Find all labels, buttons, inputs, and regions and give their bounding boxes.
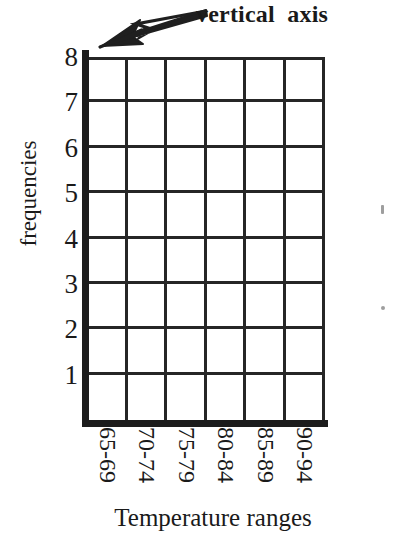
grid-cell [207, 102, 247, 147]
x-tick-label: 70-74 [135, 427, 159, 483]
x-tick-label: 80-84 [214, 427, 238, 483]
grid-cell [286, 284, 326, 329]
grid-cell [246, 239, 286, 284]
grid-cell [128, 239, 168, 284]
x-tick-label: 85-89 [254, 427, 278, 483]
x-tick-label: 90-94 [293, 427, 317, 483]
x-tick-slot: 80-84 [207, 427, 247, 503]
grid-cell [207, 284, 247, 329]
grid-cell [207, 148, 247, 193]
grid-cell [167, 239, 207, 284]
y-tick-label: 1 [48, 361, 78, 388]
y-tick-label: 7 [48, 89, 78, 116]
grid-cell [128, 193, 168, 238]
grid-cell [286, 57, 326, 102]
grid-cell [286, 239, 326, 284]
grid-cell [207, 193, 247, 238]
plot-grid [88, 57, 325, 420]
grid-cell [246, 284, 286, 329]
grid-cell [167, 284, 207, 329]
x-tick-slot: 85-89 [246, 427, 286, 503]
y-axis-title: frequencies [17, 104, 40, 284]
grid-cell [167, 193, 207, 238]
y-tick-label: 2 [48, 316, 78, 343]
grid-cell [128, 375, 168, 420]
annotation-vertical-axis-label: vertical axis [196, 2, 328, 26]
grid-cell [207, 375, 247, 420]
grid-cell [246, 148, 286, 193]
grid-cell [207, 239, 247, 284]
grid-cell [88, 148, 128, 193]
grid-cell [88, 57, 128, 102]
grid-cell [88, 284, 128, 329]
x-tick-slot: 70-74 [128, 427, 168, 503]
grid-cell [88, 375, 128, 420]
horizontal-axis-line [82, 420, 328, 427]
x-tick-label: 65-69 [96, 427, 120, 483]
x-tick-slot: 65-69 [88, 427, 128, 503]
annotation-arrow-icon [96, 6, 208, 52]
x-tick-slot: 75-79 [167, 427, 207, 503]
grid-cell [88, 102, 128, 147]
y-tick-label: 6 [48, 134, 78, 161]
scan-speckle [381, 306, 385, 310]
grid-cell [167, 148, 207, 193]
grid-cell [128, 57, 168, 102]
grid-cell [286, 193, 326, 238]
y-axis-tick-labels: 8 7 6 5 4 3 2 1 [48, 57, 78, 420]
x-axis-title: Temperature ranges [88, 505, 338, 530]
grid-cell [286, 375, 326, 420]
y-tick-label: 4 [48, 225, 78, 252]
vertical-axis-line [82, 50, 89, 427]
y-tick-label: 5 [48, 180, 78, 207]
grid-cell [128, 102, 168, 147]
grid-cell [128, 148, 168, 193]
grid-cell [88, 329, 128, 374]
y-tick-label: 8 [48, 44, 78, 71]
grid-cell [246, 329, 286, 374]
x-tick-slot: 90-94 [286, 427, 326, 503]
grid-cell [246, 375, 286, 420]
figure-canvas: vertical axis frequencies 8 7 6 5 4 3 2 … [0, 0, 400, 557]
grid-cell [207, 329, 247, 374]
grid-cell [246, 57, 286, 102]
grid-cell [128, 329, 168, 374]
grid-cell-matrix [88, 57, 325, 420]
grid-cell [286, 329, 326, 374]
grid-cell [167, 102, 207, 147]
grid-cell [246, 193, 286, 238]
y-tick-label: 3 [48, 270, 78, 297]
grid-cell [167, 375, 207, 420]
grid-cell [286, 102, 326, 147]
grid-cell [167, 329, 207, 374]
x-tick-label: 75-79 [175, 427, 199, 483]
grid-cell [88, 193, 128, 238]
grid-cell [207, 57, 247, 102]
grid-cell [246, 102, 286, 147]
x-axis-tick-labels: 65-6970-7475-7980-8485-8990-94 [88, 427, 325, 503]
scan-speckle [381, 205, 384, 214]
grid-cell [128, 284, 168, 329]
grid-cell [88, 239, 128, 284]
grid-cell [286, 148, 326, 193]
grid-cell [167, 57, 207, 102]
